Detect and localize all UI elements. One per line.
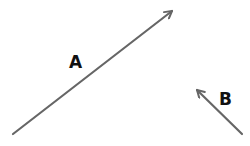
vector-a-arrow — [13, 11, 172, 134]
vector-canvas — [0, 0, 250, 146]
vector-b-label: B — [219, 91, 232, 108]
vector-a-label: A — [69, 54, 82, 71]
